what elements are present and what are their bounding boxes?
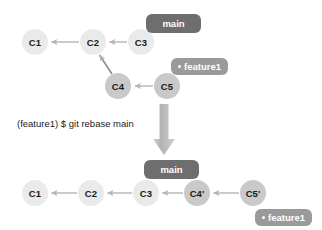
commit-node-c1-after: C1	[22, 180, 48, 206]
commit-node-c3-after: C3	[133, 180, 159, 206]
commit-node-c1: C1	[22, 29, 48, 55]
commit-node-c5-prime: C5'	[240, 180, 266, 206]
current-branch-dot-icon	[178, 65, 181, 68]
branch-badge-main-before[interactable]: main	[146, 14, 201, 33]
edge-c4-c2	[100, 55, 113, 74]
commit-node-c4: C4	[105, 73, 131, 99]
branch-badge-feature1-before[interactable]: feature1	[171, 58, 228, 75]
branch-badge-feature1-after-label: feature1	[268, 212, 305, 223]
rebase-diagram-canvas: C1 C2 C3 C4 C5 main feature1 (feature1) …	[0, 0, 322, 230]
branch-badge-main-after[interactable]: main	[144, 160, 199, 179]
branch-badge-feature1-after[interactable]: feature1	[255, 209, 312, 226]
commit-node-c5: C5	[154, 73, 180, 99]
git-command-text: (feature1) $ git rebase main	[17, 118, 134, 129]
commit-node-c2-after: C2	[78, 180, 104, 206]
transition-arrow-down-icon	[150, 103, 178, 157]
branch-badge-feature1-before-label: feature1	[184, 61, 221, 72]
commit-node-c2: C2	[80, 29, 106, 55]
current-branch-dot-icon	[262, 216, 265, 219]
commit-node-c4-prime: C4'	[184, 180, 210, 206]
